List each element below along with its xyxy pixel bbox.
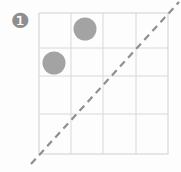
dashed-diagonal-line <box>31 2 179 164</box>
circle-row2-col1 <box>43 52 66 75</box>
shaded-circles <box>43 18 97 75</box>
grid-diagram <box>0 0 181 172</box>
figure-canvas: ❶ <box>0 0 181 172</box>
circle-row1-col2 <box>74 18 97 41</box>
